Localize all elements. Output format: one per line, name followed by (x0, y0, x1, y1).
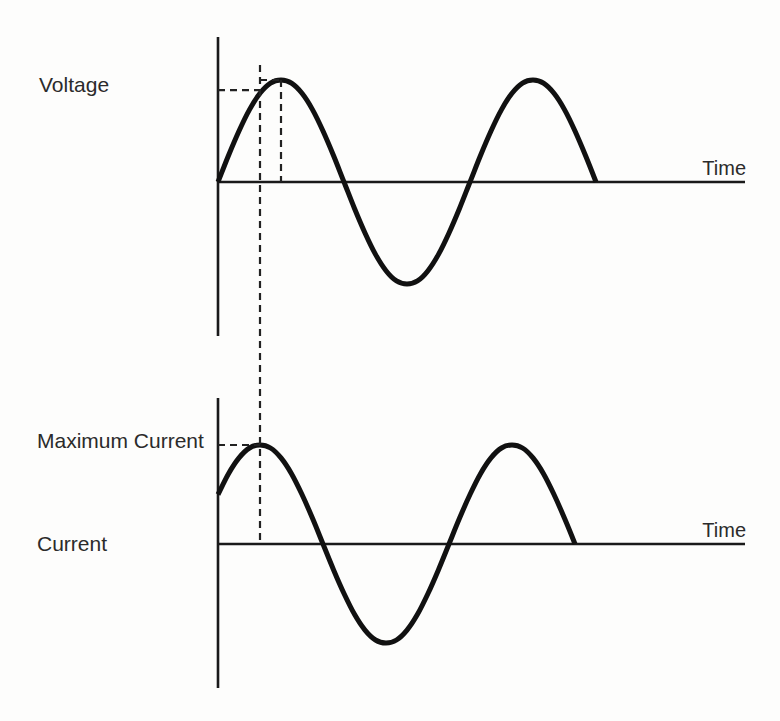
current-axis-label: Current (37, 532, 107, 555)
time-axis-label-bottom: Time (702, 519, 746, 541)
time-axis-label-top: Time (702, 157, 746, 179)
background (0, 0, 780, 721)
maximum-current-label: Maximum Current (37, 429, 204, 452)
voltage-current-waveform-diagram: Voltage Maximum Current Current Time Tim… (0, 0, 780, 721)
voltage-axis-label: Voltage (39, 73, 109, 96)
